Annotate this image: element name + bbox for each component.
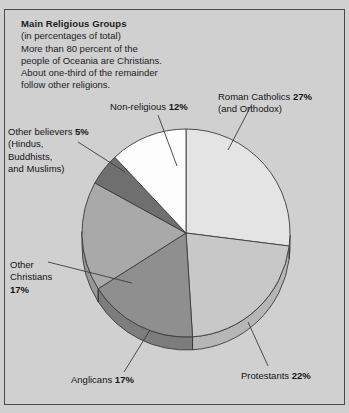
slice-label-other-believers-sub1: (Hindus, — [8, 138, 89, 150]
slice-label-other-believers-sub2: Buddhists, — [8, 151, 89, 163]
slice-value-other-christians: 17% — [10, 284, 29, 295]
slice-label-roman-catholics: Roman Catholics 27% (and Orthodox) — [218, 91, 312, 116]
leader-line-5 — [248, 322, 268, 366]
slice-value-roman-catholics: 27% — [293, 91, 312, 102]
slice-label-other-christians: Other Christians 17% — [10, 259, 52, 296]
pie-chart-svg — [0, 0, 349, 413]
slice-label-roman-catholics-text: Roman Catholics — [218, 91, 293, 102]
slice-label-other-believers-text: Other believers — [8, 126, 75, 137]
slice-label-anglicans: Anglicans 17% — [71, 374, 134, 386]
slice-label-non-religious: Non-religious 12% — [110, 101, 188, 113]
slice-label-other-christians-text2: Christians — [10, 271, 52, 283]
slice-label-non-religious-text: Non-religious — [110, 101, 169, 112]
pie-slice-protestants — [186, 233, 289, 337]
slice-value-non-religious: 12% — [169, 101, 188, 112]
slice-value-other-believers: 5% — [75, 126, 89, 137]
slice-label-other-christians-text1: Other — [10, 259, 52, 271]
slice-label-other-believers: Other believers 5% (Hindus, Buddhists, a… — [8, 126, 89, 175]
slice-label-other-believers-sub3: and Muslims) — [8, 163, 89, 175]
slice-label-anglicans-text: Anglicans — [71, 374, 115, 385]
pie-chart-canvas — [0, 0, 349, 413]
slice-label-protestants: Protestants 22% — [241, 370, 311, 382]
slice-value-protestants: 22% — [292, 370, 311, 381]
pie-slices-group — [82, 129, 290, 350]
slice-label-roman-catholics-sub: (and Orthodox) — [218, 103, 312, 115]
slice-label-protestants-text: Protestants — [241, 370, 292, 381]
pie-chart-figure: Main Religious Groups (in percentages of… — [0, 0, 349, 413]
pie-slice-roman-catholics-and-orthodox — [186, 129, 290, 246]
slice-value-anglicans: 17% — [115, 374, 134, 385]
